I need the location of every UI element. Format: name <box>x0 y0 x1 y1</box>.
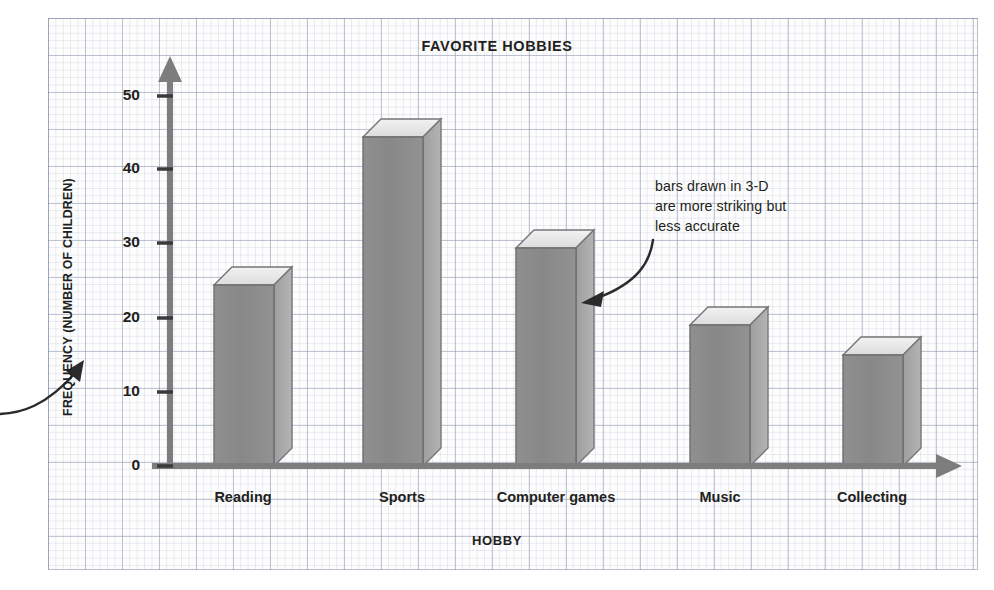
bar-front-face <box>214 285 274 466</box>
three-d-note-line-3: less accurate <box>655 218 740 234</box>
three-d-note-line-2: are more striking but <box>655 198 786 214</box>
x-tick-label-music: Music <box>650 489 790 505</box>
bar-music[interactable] <box>690 307 768 466</box>
bar-front-face <box>516 248 576 466</box>
x-tick-label-reading: Reading <box>173 489 313 505</box>
bar-side-face <box>423 119 441 466</box>
bar-side-face <box>750 307 768 466</box>
x-tick-label-computer-games: Computer games <box>476 489 636 505</box>
x-axis-arrow-icon <box>936 454 962 478</box>
chart-screenshot: FAVORITE HOBBIES FREQUENCY (NUMBER OF CH… <box>0 0 994 590</box>
bar-chart: FAVORITE HOBBIES FREQUENCY (NUMBER OF CH… <box>0 0 994 590</box>
bar-collecting[interactable] <box>843 337 921 466</box>
y-tick-label-20: 20 <box>94 308 140 326</box>
bar-front-face <box>690 325 750 466</box>
chart-title: FAVORITE HOBBIES <box>0 38 994 54</box>
bar-front-face <box>843 355 903 466</box>
y-tick-label-0: 0 <box>94 456 140 474</box>
note-arrow-curve <box>600 240 653 297</box>
y-tick-label-50: 50 <box>94 86 140 104</box>
y-tick-label-40: 40 <box>94 159 140 177</box>
bar-side-face <box>903 337 921 466</box>
y-tick-label-30: 30 <box>94 233 140 251</box>
y-axis-arrow-icon <box>158 56 182 82</box>
bar-front-face <box>363 137 423 466</box>
bar-side-face <box>576 230 594 466</box>
x-tick-label-sports: Sports <box>332 489 472 505</box>
bar-reading[interactable] <box>214 267 292 466</box>
bar-computer-games[interactable] <box>516 230 594 466</box>
three-d-note-line-1: bars drawn in 3-D <box>655 178 769 194</box>
x-axis-title: HOBBY <box>0 533 994 548</box>
x-tick-label-collecting: Collecting <box>802 489 942 505</box>
bars-group <box>214 119 921 466</box>
bar-side-face <box>274 267 292 466</box>
bar-sports[interactable] <box>363 119 441 466</box>
y-tick-label-10: 10 <box>94 382 140 400</box>
y-axis-title: FREQUENCY (NUMBER OF CHILDREN) <box>61 167 75 427</box>
